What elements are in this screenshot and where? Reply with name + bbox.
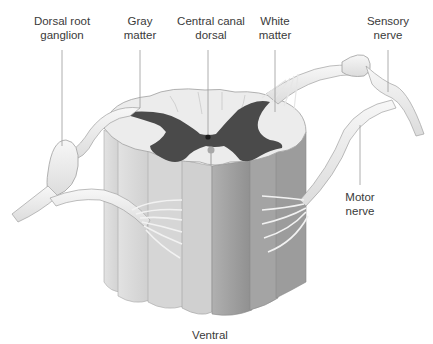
- column-left-inner: [148, 150, 184, 308]
- central-canal: [205, 134, 210, 139]
- label-sensory-nerve: Sensory nerve: [358, 14, 418, 42]
- label-gray-matter: Gray matter: [115, 14, 165, 42]
- column-right: [250, 150, 278, 310]
- label-ventral: Ventral: [185, 328, 235, 342]
- label-dorsal-root-ganglion: Dorsal root ganglion: [22, 14, 102, 42]
- sensory-nerve-trunk: [366, 66, 424, 136]
- column-center-left: [182, 160, 212, 314]
- label-central-canal: Central canal dorsal: [166, 14, 256, 42]
- spinal-nerve-left: [12, 186, 58, 222]
- dorsal-root-ganglion-shape: [47, 140, 78, 196]
- label-white-matter: White matter: [250, 14, 300, 42]
- column-center-right: [212, 160, 252, 315]
- label-motor-nerve: Motor nerve: [335, 190, 385, 218]
- spinal-cord-diagram: [0, 0, 433, 344]
